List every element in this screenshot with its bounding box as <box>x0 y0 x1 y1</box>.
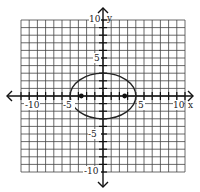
x-tick-label-10: 10 <box>173 100 185 110</box>
focus-right-point <box>122 94 127 99</box>
x-tick-label-5: 5 <box>138 100 144 110</box>
x-tick-label-neg5: -5 <box>63 100 72 110</box>
y-tick-label-10: 10 <box>89 14 101 24</box>
coordinate-plane: -10 -5 5 10 x 10 5 -5 -10 y <box>0 0 200 192</box>
y-tick-label-5: 5 <box>94 53 100 63</box>
focus-left-point <box>79 94 84 99</box>
x-tick-label-neg10: -10 <box>25 100 40 110</box>
y-axis-label: y <box>106 13 113 23</box>
x-axis-label: x <box>188 100 193 110</box>
y-tick-label-neg10: -10 <box>84 166 99 176</box>
y-tick-label-neg5: -5 <box>88 129 97 139</box>
